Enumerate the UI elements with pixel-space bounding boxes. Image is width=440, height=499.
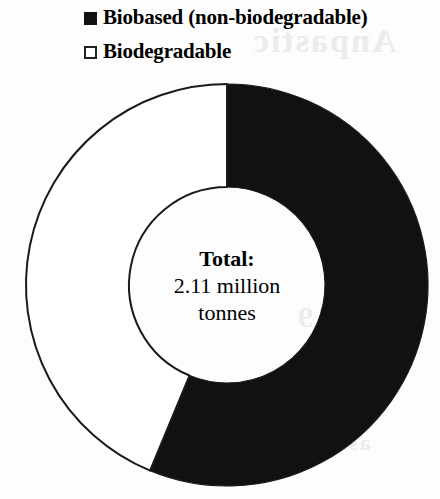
donut-chart: Total: 2.11 million tonnes xyxy=(0,0,440,499)
chart-figure: Anpastic Global 2019 association Biobase… xyxy=(0,0,440,499)
donut-chart-svg xyxy=(0,0,440,499)
